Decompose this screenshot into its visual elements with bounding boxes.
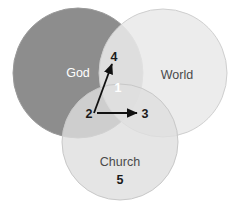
venn-diagram: God World Church 4 1 2 3 5 (0, 0, 237, 224)
circle-label-god: God (66, 66, 90, 80)
circle-label-church: Church (100, 155, 140, 169)
region-number-4: 4 (111, 50, 118, 64)
circle-label-world: World (161, 68, 193, 82)
venn-diagram-canvas: God World Church 4 1 2 3 5 (0, 0, 237, 224)
region-number-1: 1 (115, 81, 122, 95)
region-number-2: 2 (86, 107, 93, 121)
region-number-5: 5 (117, 173, 124, 187)
region-number-3: 3 (142, 107, 149, 121)
